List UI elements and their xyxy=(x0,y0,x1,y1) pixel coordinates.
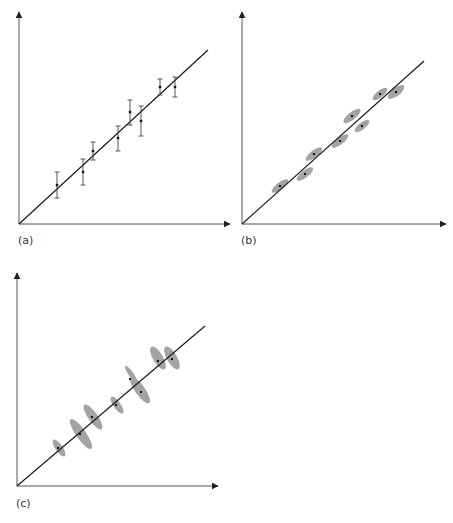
panel-a xyxy=(19,12,230,224)
uncertainty-ellipses xyxy=(270,83,406,195)
panel-c xyxy=(17,273,218,486)
figure xyxy=(0,0,453,523)
fit-line xyxy=(242,61,424,224)
error-bars xyxy=(55,77,178,198)
data-points xyxy=(56,86,176,186)
panel-label-b: (b) xyxy=(241,234,257,247)
panel-b xyxy=(242,12,446,224)
panel-label-c: (c) xyxy=(16,497,31,510)
fit-line xyxy=(17,326,205,486)
panel-label-a: (a) xyxy=(18,234,33,247)
fit-line xyxy=(19,50,208,224)
figure-caption xyxy=(0,514,453,523)
